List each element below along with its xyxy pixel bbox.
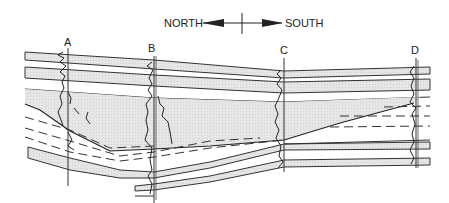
- lower-strata: [28, 140, 430, 196]
- south-label: SOUTH: [285, 17, 324, 29]
- well-label-a: A: [64, 36, 72, 48]
- north-label: NORTH: [164, 17, 203, 29]
- north-arrow-icon: [202, 19, 243, 27]
- well-label-b: B: [148, 42, 155, 54]
- compass: NORTH SOUTH: [164, 13, 324, 34]
- well-label-c: C: [280, 44, 288, 56]
- well-label-d: D: [411, 44, 419, 56]
- cross-section-diagram: NORTH SOUTH: [0, 0, 449, 203]
- south-arrow-icon: [243, 19, 283, 27]
